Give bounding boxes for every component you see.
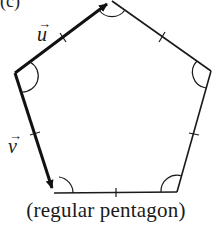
side-right-bottomright (177, 71, 211, 192)
angle-arc-bottom-left (59, 177, 73, 193)
angle-arcs (22, 10, 206, 193)
vector-v-label: → v (8, 135, 17, 158)
vectors (15, 4, 107, 188)
figure-caption: (regular pentagon) (0, 198, 212, 223)
vector-arrow-icon: → (9, 128, 22, 144)
pentagon-diagram (0, 0, 212, 228)
pentagon-sides (54, 1, 211, 193)
side-ticks (30, 32, 199, 197)
pentagon-figure: (c) (0, 0, 212, 228)
vector-u (15, 4, 107, 73)
angle-arc-top (99, 10, 125, 17)
side-top-right (112, 1, 211, 71)
vector-u-label: → u (37, 23, 47, 46)
vector-arrow-icon: → (38, 16, 51, 32)
